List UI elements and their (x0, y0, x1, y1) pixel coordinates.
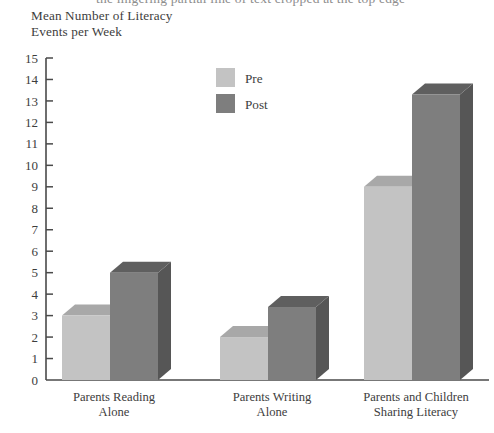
category-label-2: Parents Writing (233, 390, 312, 404)
bar-post-group-2 (268, 296, 329, 380)
y-tick-label-7: 7 (32, 222, 39, 237)
y-tick-label-8: 8 (32, 201, 39, 216)
y-tick-label-13: 13 (25, 94, 38, 109)
y-tick-label-9: 9 (32, 179, 39, 194)
legend-swatch-post (216, 94, 235, 113)
y-axis-ticks: 0123456789101112131415 (25, 51, 53, 388)
y-tick-label-4: 4 (32, 287, 39, 302)
y-tick-label-15: 15 (25, 51, 38, 66)
y-tick-label-11: 11 (25, 136, 38, 151)
category-labels: Parents ReadingAloneParents WritingAlone… (73, 390, 470, 419)
y-tick-label-5: 5 (32, 265, 39, 280)
y-tick-label-10: 10 (25, 158, 38, 173)
category-label-1: Parents Reading (73, 390, 156, 404)
bar-side-face (460, 83, 473, 380)
y-tick-label-6: 6 (32, 244, 39, 259)
category-label-1: Alone (99, 405, 130, 419)
bar-post-group-3 (412, 83, 473, 380)
bar-front-face (268, 307, 316, 380)
bar-chart-figure: the lingering partial line of text cropp… (0, 0, 494, 433)
category-label-2: Alone (257, 405, 288, 419)
legend-swatch-pre (216, 68, 235, 87)
bar-post-group-1 (110, 262, 171, 380)
y-tick-label-0: 0 (32, 373, 39, 388)
bar-front-face (62, 316, 110, 380)
legend-label-pre: Pre (245, 71, 263, 86)
bars-layer (62, 83, 473, 380)
y-tick-label-3: 3 (32, 308, 39, 323)
y-tick-label-1: 1 (32, 351, 39, 366)
category-label-3: Sharing Literacy (374, 405, 459, 419)
bar-front-face (110, 273, 158, 380)
chart-canvas: 0123456789101112131415 Parents ReadingAl… (0, 0, 494, 433)
bar-front-face (220, 337, 268, 380)
bar-front-face (412, 94, 460, 380)
y-tick-label-12: 12 (25, 115, 38, 130)
legend-label-post: Post (245, 97, 268, 112)
category-label-3: Parents and Children (363, 390, 469, 404)
bar-front-face (364, 187, 412, 380)
chart-legend: PrePost (216, 68, 268, 113)
y-tick-label-2: 2 (32, 330, 39, 345)
y-tick-label-14: 14 (25, 72, 39, 87)
bar-side-face (158, 262, 171, 380)
bar-side-face (316, 296, 329, 380)
